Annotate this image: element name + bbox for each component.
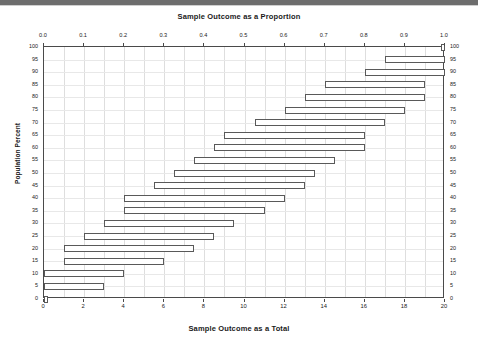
y-tick-label-right: 20: [450, 245, 468, 251]
x-tick-bottom-mark: [203, 299, 204, 302]
x-tick-top-label: 0.6: [280, 32, 288, 38]
y-tick-label-right: 5: [450, 282, 468, 288]
x-tick-bottom-label: 10: [240, 303, 246, 309]
y-tick-label-left: 45: [20, 182, 38, 188]
y-tick-label-left: 10: [20, 270, 38, 276]
y-tick-label-right: 25: [450, 232, 468, 238]
x-tick-top-mark: [444, 43, 445, 46]
x-tick-top-mark: [364, 43, 365, 46]
y-tick-label-left: 30: [20, 219, 38, 225]
x-tick-top-label: 0.1: [79, 32, 87, 38]
x-tick-top-label: 0.2: [119, 32, 127, 38]
interval-bar: [174, 170, 314, 177]
x-tick-top-mark: [123, 43, 124, 46]
interval-bar: [365, 69, 445, 76]
x-tick-bottom-label: 14: [320, 303, 326, 309]
y-tick-label-left: 70: [20, 119, 38, 125]
y-tick-label-left: 5: [20, 282, 38, 288]
y-tick-label-right: 65: [450, 131, 468, 137]
interval-bar: [64, 258, 164, 265]
x-tick-bottom-label: 16: [361, 303, 367, 309]
x-tick-top-mark: [163, 43, 164, 46]
x-tick-bottom-mark: [244, 299, 245, 302]
x-tick-bottom-label: 0: [41, 303, 44, 309]
x-tick-bottom-mark: [43, 299, 44, 302]
x-tick-bottom-mark: [324, 299, 325, 302]
x-tick-top-label: 0.3: [159, 32, 167, 38]
interval-bar: [44, 283, 104, 290]
y-tick-label-right: 55: [450, 156, 468, 162]
y-tick-label-right: 95: [450, 56, 468, 62]
interval-bar: [124, 195, 284, 202]
x-tick-top-label: 0.7: [320, 32, 328, 38]
x-tick-bottom-mark: [444, 299, 445, 302]
y-tick-label-right: 30: [450, 219, 468, 225]
y-tick-label-left: 0: [20, 295, 38, 301]
horizontal-gridline: [44, 60, 443, 61]
x-tick-bottom-label: 4: [122, 303, 125, 309]
interval-bar: [305, 94, 425, 101]
x-tick-bottom-mark: [364, 299, 365, 302]
y-tick-label-left: 25: [20, 232, 38, 238]
x-tick-bottom-mark: [83, 299, 84, 302]
interval-bar: [214, 144, 364, 151]
x-tick-top-label: 0.5: [240, 32, 248, 38]
y-tick-label-left: 95: [20, 56, 38, 62]
y-tick-label-right: 100: [450, 43, 468, 49]
x-axis-label: Sample Outcome as a Total: [0, 324, 478, 333]
y-tick-label-left: 60: [20, 144, 38, 150]
interval-bar: [44, 296, 48, 303]
y-tick-label-right: 15: [450, 257, 468, 263]
y-tick-label-right: 75: [450, 106, 468, 112]
x-tick-top-mark: [324, 43, 325, 46]
x-tick-top-mark: [284, 43, 285, 46]
x-tick-bottom-label: 8: [202, 303, 205, 309]
plot-area: [43, 46, 444, 298]
interval-bar: [224, 132, 364, 139]
x-tick-bottom-label: 12: [280, 303, 286, 309]
y-tick-label-right: 0: [450, 295, 468, 301]
y-tick-label-left: 15: [20, 257, 38, 263]
x-tick-top-label: 0.4: [200, 32, 208, 38]
y-tick-label-right: 80: [450, 93, 468, 99]
x-tick-top-mark: [43, 43, 44, 46]
x-tick-bottom-mark: [404, 299, 405, 302]
x-tick-top-label: 0.9: [400, 32, 408, 38]
x-tick-bottom-mark: [123, 299, 124, 302]
y-tick-label-right: 45: [450, 182, 468, 188]
y-tick-label-left: 35: [20, 207, 38, 213]
y-tick-label-left: 65: [20, 131, 38, 137]
x-tick-top-label: 0.8: [360, 32, 368, 38]
interval-bar: [325, 81, 425, 88]
interval-bar: [64, 245, 194, 252]
interval-bar: [255, 119, 385, 126]
y-tick-label-left: 75: [20, 106, 38, 112]
interval-bar: [194, 157, 334, 164]
y-tick-label-left: 55: [20, 156, 38, 162]
interval-bar: [385, 56, 445, 63]
x-tick-bottom-mark: [284, 299, 285, 302]
y-tick-label-right: 40: [450, 194, 468, 200]
x-tick-bottom-label: 6: [162, 303, 165, 309]
y-tick-label-left: 85: [20, 81, 38, 87]
y-tick-label-right: 35: [450, 207, 468, 213]
y-tick-label-left: 90: [20, 68, 38, 74]
interval-bar: [104, 220, 234, 227]
y-tick-label-right: 10: [450, 270, 468, 276]
y-tick-label-left: 50: [20, 169, 38, 175]
x-tick-top-label: 1.0: [440, 32, 448, 38]
y-tick-label-right: 60: [450, 144, 468, 150]
x-tick-bottom-label: 18: [401, 303, 407, 309]
x-tick-bottom-mark: [163, 299, 164, 302]
interval-bar: [84, 233, 214, 240]
x-tick-bottom-label: 2: [81, 303, 84, 309]
interval-bar: [154, 182, 304, 189]
y-tick-label-left: 40: [20, 194, 38, 200]
x-tick-top-mark: [244, 43, 245, 46]
y-tick-label-right: 85: [450, 81, 468, 87]
y-tick-label-right: 70: [450, 119, 468, 125]
x-tick-top-label: 0.0: [39, 32, 47, 38]
interval-bar: [124, 207, 264, 214]
x-tick-bottom-label: 20: [441, 303, 447, 309]
y-tick-label-left: 20: [20, 245, 38, 251]
